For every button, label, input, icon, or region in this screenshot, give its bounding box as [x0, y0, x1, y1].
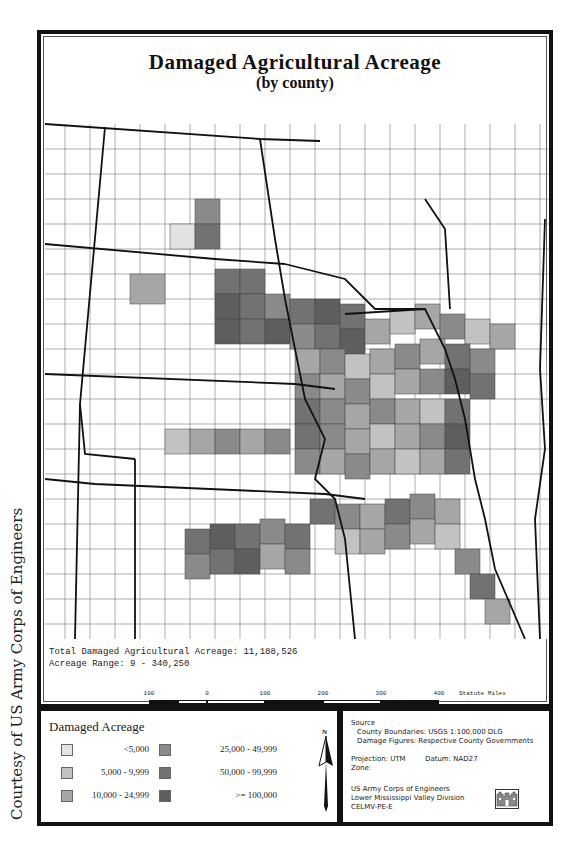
org-code: CELMV-PE-E	[351, 803, 393, 811]
map-title: Damaged Agricultural Acreage	[41, 50, 549, 75]
legend-title: Damaged Acreage	[49, 719, 145, 735]
swatch-50000-99999	[159, 767, 171, 779]
scale-units: Statute Miles	[459, 690, 506, 697]
county-boundaries-source: County Boundaries: USGS 1:100,000 DLG	[357, 728, 503, 736]
datum-text: Datum: NAD27	[425, 755, 478, 763]
scale-bar: 100 0 100 200 300 400 Statute Miles	[149, 690, 449, 710]
org-division: Lower Mississippi Valley Division	[351, 794, 465, 802]
map-subtitle: (by county)	[41, 74, 549, 92]
choropleth-map	[45, 119, 549, 639]
svg-text:N: N	[322, 728, 327, 736]
north-arrow-icon: N	[311, 726, 341, 816]
legend-panel: Damaged Acreage <5,000 5,000 - 9,999 10,…	[37, 708, 341, 826]
swatch-over-100000	[159, 790, 171, 802]
zone-text: Zone:	[351, 764, 371, 772]
corps-castle-logo-icon	[495, 789, 519, 809]
damage-figures-source: Damage Figures: Respective County Govern…	[357, 737, 533, 745]
projection-text: Projection: UTM	[351, 755, 406, 763]
map-frame: Damaged Agricultural Acreage (by county)	[37, 30, 553, 708]
swatch-25000-49999	[159, 744, 171, 756]
credit-text: Courtesy of US Army Corps of Engineers	[8, 508, 26, 820]
org-name: US Army Corps of Engineers	[351, 785, 450, 793]
source-info-panel: Source County Boundaries: USGS 1:100,000…	[341, 708, 553, 826]
total-acreage-text: Total Damaged Agricultural Acreage: 11,1…	[49, 646, 297, 658]
acreage-range-text: Acreage Range: 9 - 340,250	[49, 658, 297, 670]
